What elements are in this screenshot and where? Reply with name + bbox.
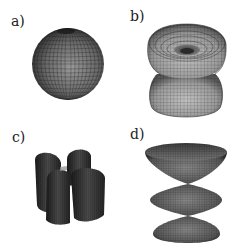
- double-torus-surface: [148, 24, 227, 117]
- stacked-lens-surface: [145, 143, 227, 243]
- figure-canvas: [0, 0, 236, 248]
- sphere-surface: [32, 28, 104, 100]
- four-lobed-cylinder-surface: [35, 150, 105, 225]
